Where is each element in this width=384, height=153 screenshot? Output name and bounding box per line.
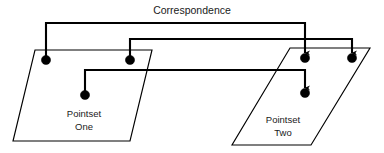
pointset-two-label-line2: Two (274, 127, 291, 138)
pointset-two-label-line1: Pointset (266, 114, 301, 125)
figure-title: Correspondence (153, 4, 231, 16)
source-point (125, 55, 134, 64)
source-point (41, 55, 50, 64)
correspondence-line-1 (46, 23, 305, 60)
pointset-one-label-line2: One (75, 121, 93, 132)
target-point (300, 88, 309, 97)
correspondence-line-3 (85, 70, 305, 95)
pointset-one-label-line1: Pointset (67, 108, 102, 119)
correspondence-line-2 (130, 39, 352, 60)
correspondence-figure: Correspondence Pointset One Pointset Two (0, 0, 384, 153)
target-point (347, 53, 356, 62)
target-point (300, 53, 309, 62)
pointset-two-outline (232, 48, 370, 145)
source-point (80, 90, 89, 99)
diagram-canvas: Correspondence Pointset One Pointset Two (0, 0, 384, 153)
